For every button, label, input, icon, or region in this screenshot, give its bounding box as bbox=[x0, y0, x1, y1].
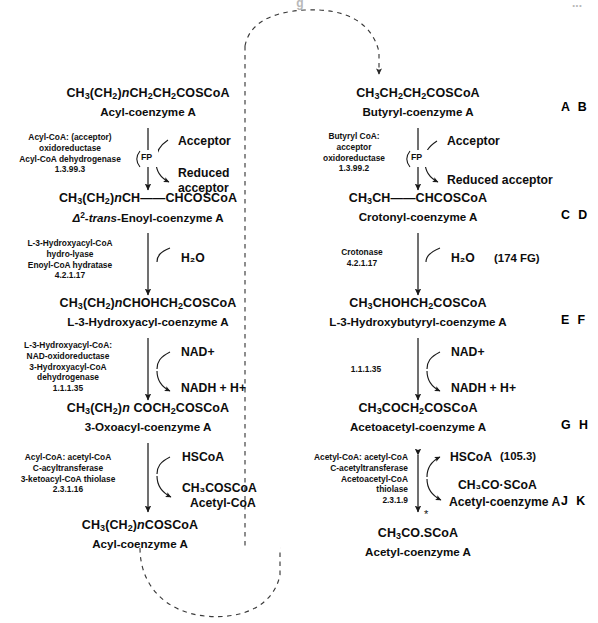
left-name-4: 3-Oxoacyl-coenzyme A bbox=[85, 420, 212, 433]
enzyme-line: hydro-lyase bbox=[6, 249, 134, 260]
enzyme-line: L-3-Hydroxyacyl-CoA bbox=[6, 238, 134, 249]
left-name-2: Δ2-trans-Enoyl-coenzyme A bbox=[72, 210, 223, 224]
right-enzyme-3: 1.1.1.35 bbox=[330, 364, 402, 375]
enzyme-line: Acetoacetyl-CoA bbox=[278, 474, 408, 485]
left-cofactor-out-1a: Reduced bbox=[178, 166, 229, 180]
dashed-bottom-loop bbox=[140, 548, 280, 617]
left-formula-4: CH3(CH2)n COCH2COSCoA bbox=[67, 401, 229, 416]
left-formula-2: CH3(CH2)nCH——CHCOSCoA bbox=[59, 191, 237, 206]
right-formula-4: CH3COCH2COSCoA bbox=[358, 401, 477, 416]
left-fp-label-1: FP bbox=[141, 152, 152, 162]
right-hook-out-up-4 bbox=[427, 457, 440, 477]
enzyme-line: oxidoreductase bbox=[6, 143, 134, 154]
right-enzyme-2: Crotonase4.2.1.17 bbox=[316, 247, 408, 269]
enzyme-line: NAD-oxidoreductase bbox=[2, 351, 134, 362]
left-cofactor-in-2: H₂O bbox=[181, 251, 205, 265]
right-enzyme-4: Acetyl-CoA: acetyl-CoAC-acetyltransferas… bbox=[278, 452, 408, 506]
enzyme-line: 3-Hydroxyacyl-CoA bbox=[2, 362, 134, 373]
right-cofactor-out-3: NADH + H+ bbox=[451, 381, 516, 395]
dashed-top-arc-to-butyryl bbox=[245, 10, 379, 74]
right-name-5: Acetyl-coenzyme A bbox=[365, 545, 471, 558]
cropped-header-right-text: ... bbox=[572, 0, 582, 10]
enzyme-line: 1.1.1.35 bbox=[330, 364, 402, 375]
left-hook-in-3 bbox=[157, 352, 170, 369]
left-cofactor-out-4b: Acetyl-CoA bbox=[190, 496, 256, 510]
right-hook-in-3 bbox=[427, 352, 440, 369]
left-cofactor-in-3: NAD+ bbox=[181, 345, 215, 359]
left-name-3: L-3-Hydroxyacyl-coenzyme A bbox=[67, 315, 228, 328]
left-hook-in-1 bbox=[156, 140, 168, 160]
enzyme-line: L-3-Hydroxyacyl-CoA: bbox=[2, 340, 134, 351]
enzyme-line: 2.3.1.9 bbox=[278, 495, 408, 506]
enzyme-line: Acyl-CoA: (acceptor) bbox=[6, 132, 134, 143]
right-cofactor-in-3: NAD+ bbox=[451, 345, 485, 359]
left-formula-1: CH3(CH2)nCH2CH2COSCoA bbox=[66, 86, 229, 101]
enzyme-line: 1.3.99.2 bbox=[300, 163, 408, 174]
left-hook-out-4 bbox=[157, 476, 171, 497]
enzyme-line: oxidoreductase bbox=[300, 153, 408, 164]
right-formula-2: CH3CH——CHCOSCoA bbox=[349, 191, 487, 206]
left-cofactor-in-1: Acceptor bbox=[178, 134, 231, 148]
right-hook-in-2 bbox=[426, 248, 440, 262]
enzyme-line: Acyl-CoA dehydrogenase bbox=[6, 154, 134, 165]
left-enzyme-4: Acyl-CoA: acetyl-CoAC-acyltransferase3-k… bbox=[2, 452, 134, 495]
margin-letters-ab: A B bbox=[561, 100, 589, 114]
left-hook-out-3 bbox=[157, 371, 170, 391]
margin-letters-gh: G H bbox=[561, 418, 590, 432]
enzyme-line: 1.1.1.35 bbox=[2, 383, 134, 394]
asterisk-marker: * bbox=[424, 508, 429, 520]
enzyme-line: Butyryl CoA: bbox=[300, 131, 408, 142]
diagram-page: g ... bbox=[0, 0, 598, 623]
right-cofactor-out-4b: Acetyl-coenzyme A bbox=[449, 495, 560, 509]
enzyme-line: 3-ketoacyl-CoA thiolase bbox=[2, 474, 134, 485]
enzyme-line: Crotonase bbox=[316, 247, 408, 258]
enzyme-line: Enoyl-CoA hydratase bbox=[6, 260, 134, 271]
right-cofactor-in-2: H₂O bbox=[451, 251, 475, 265]
enzyme-line: acceptor bbox=[300, 142, 408, 153]
margin-letters-ef: E F bbox=[561, 313, 587, 327]
left-hook-in-4 bbox=[157, 457, 170, 474]
right-hook-out-1 bbox=[425, 162, 438, 182]
enzyme-line: 1.3.99.3 bbox=[6, 164, 134, 175]
right-fp-label-1: FP bbox=[411, 152, 422, 162]
enzyme-line: Acetyl-CoA: acetyl-CoA bbox=[278, 452, 408, 463]
left-cofactor-in-4: HSCoA bbox=[182, 450, 224, 464]
right-cofactor-in-1: Acceptor bbox=[447, 134, 500, 148]
left-name-5: Acyl-coenzyme A bbox=[92, 537, 188, 550]
right-note-174fg: (174 FG) bbox=[494, 252, 540, 264]
fp-bracket-left bbox=[137, 151, 140, 167]
cropped-header-text: g bbox=[170, 0, 430, 10]
left-cofactor-out-3: NADH + H+ bbox=[181, 381, 246, 395]
left-formula-3: CH3(CH2)nCHOHCH2COSCoA bbox=[60, 296, 237, 311]
right-hook-out-down-4 bbox=[427, 479, 441, 500]
right-enzyme-1: Butyryl CoA:acceptoroxidoreductase1.3.99… bbox=[300, 131, 408, 174]
enzyme-line: Acyl-CoA: acetyl-CoA bbox=[2, 452, 134, 463]
left-name-1: Acyl-coenzyme A bbox=[100, 105, 196, 118]
enzyme-line: 4.2.1.17 bbox=[6, 270, 134, 281]
enzyme-line: 4.2.1.17 bbox=[316, 258, 408, 269]
right-name-4: Acetoacetyl-coenzyme A bbox=[350, 420, 486, 433]
enzyme-line: C-acyltransferase bbox=[2, 463, 134, 474]
left-hook-out-1 bbox=[156, 162, 169, 182]
right-formula-1: CH3CH2CH2COSCoA bbox=[356, 86, 480, 101]
right-name-1: Butyryl-coenzyme A bbox=[362, 105, 473, 118]
margin-letters-cd: C D bbox=[561, 208, 590, 222]
right-cofactor-in-4: HSCoA bbox=[450, 450, 492, 464]
enzyme-line: 2.3.1.16 bbox=[2, 484, 134, 495]
right-formula-5: CH3CO.SCoA bbox=[378, 526, 458, 541]
enzyme-line: C-acetyltransferase bbox=[278, 463, 408, 474]
left-enzyme-1: Acyl-CoA: (acceptor)oxidoreductaseAcyl-C… bbox=[6, 132, 134, 175]
left-cofactor-out-4a: CH₃COSCoA bbox=[182, 481, 257, 495]
left-enzyme-2: L-3-Hydroxyacyl-CoAhydro-lyaseEnoyl-CoA … bbox=[6, 238, 134, 281]
right-name-2: Crotonyl-coenzyme A bbox=[359, 210, 478, 223]
right-formula-3: CH3CHOHCH2COSCoA bbox=[349, 296, 486, 311]
right-hook-out-3 bbox=[427, 371, 440, 391]
left-hook-in-2 bbox=[157, 248, 170, 262]
enzyme-line: thiolase bbox=[278, 484, 408, 495]
margin-letters-jk: J K bbox=[561, 494, 587, 508]
enzyme-line: dehydrogenase bbox=[2, 372, 134, 383]
right-hook-in-1 bbox=[425, 141, 437, 160]
right-cofactor-out-4a: CH₃CO·SCoA bbox=[458, 478, 537, 492]
right-note-1053: (105.3) bbox=[500, 450, 536, 462]
right-cofactor-out-1: Reduced acceptor bbox=[447, 173, 553, 187]
